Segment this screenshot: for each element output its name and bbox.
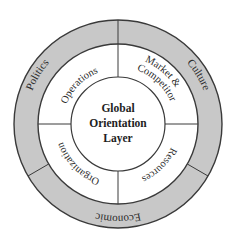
core-line-1: Global	[101, 102, 134, 114]
core-line-3: Layer	[103, 132, 132, 145]
core-line-2: Orientation	[89, 117, 147, 129]
global-orientation-diagram: Politics Culture Economic Operations Mar…	[0, 0, 234, 242]
